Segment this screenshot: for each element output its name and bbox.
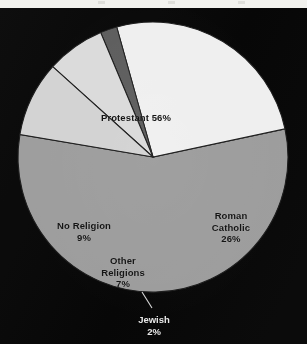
pie-label-jewish: Jewish 2% xyxy=(116,314,192,337)
pie-label-roman-catholic: Roman Catholic 26% xyxy=(196,210,266,245)
scan-speck xyxy=(98,1,105,4)
jewish-leader-line xyxy=(142,292,152,308)
pie-label-protestant: Protestant 56% xyxy=(88,112,184,124)
pie-chart: Protestant 56% Roman Catholic 26% No Rel… xyxy=(0,8,307,344)
pie-label-other-religions: Other Religions 7% xyxy=(90,255,156,290)
scan-speck xyxy=(238,1,245,4)
pie-slices xyxy=(18,22,288,292)
pie-chart-svg xyxy=(0,8,307,344)
scan-top-margin xyxy=(0,0,307,8)
pie-label-no-religion: No Religion 9% xyxy=(38,220,130,243)
scan-speck xyxy=(168,1,175,4)
chart-page: Protestant 56% Roman Catholic 26% No Rel… xyxy=(0,0,307,344)
